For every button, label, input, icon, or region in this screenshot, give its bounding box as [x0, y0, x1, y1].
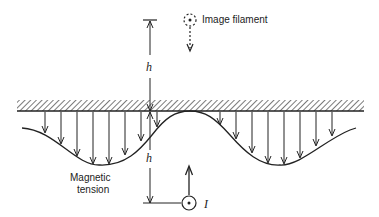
diagram-canvas: h Image filament h — [0, 0, 379, 217]
height-dimension-top: h — [143, 20, 157, 111]
magnetic-tension-arrows — [42, 112, 335, 164]
hatched-boundary — [17, 100, 364, 111]
height-label-bottom: h — [146, 151, 152, 165]
magnetic-tension-diagram: h Image filament h — [0, 0, 379, 217]
image-filament: Image filament — [184, 14, 268, 51]
image-filament-label: Image filament — [202, 14, 268, 25]
current-filament: I — [182, 166, 209, 211]
current-label: I — [203, 197, 209, 211]
field-line-curve — [22, 111, 356, 165]
height-dimension-bottom: h — [143, 112, 181, 203]
magnetic-tension-label-line2: tension — [77, 184, 109, 195]
magnetic-tension-label-line1: Magnetic — [70, 172, 111, 183]
height-label-top: h — [146, 60, 152, 74]
